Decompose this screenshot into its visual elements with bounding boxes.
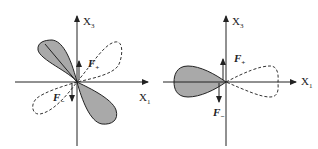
right-diagram xyxy=(163,16,296,146)
left-diagram xyxy=(15,16,148,146)
left-dashed-lobe-upper-right xyxy=(77,42,122,82)
left-x1-label: X1 xyxy=(139,92,150,106)
left-force-plus-label: F+ xyxy=(88,58,99,72)
diagram-canvas xyxy=(0,0,318,149)
left-solid-lobe-lower-right xyxy=(77,82,117,124)
left-force-minus-label: F− xyxy=(53,92,65,106)
left-x3-label: X3 xyxy=(83,16,94,30)
right-force-minus-label: F− xyxy=(213,107,225,121)
right-x1-label: X1 xyxy=(301,76,312,90)
right-force-plus-label: F+ xyxy=(234,53,245,67)
right-x3-label: X3 xyxy=(232,16,243,30)
